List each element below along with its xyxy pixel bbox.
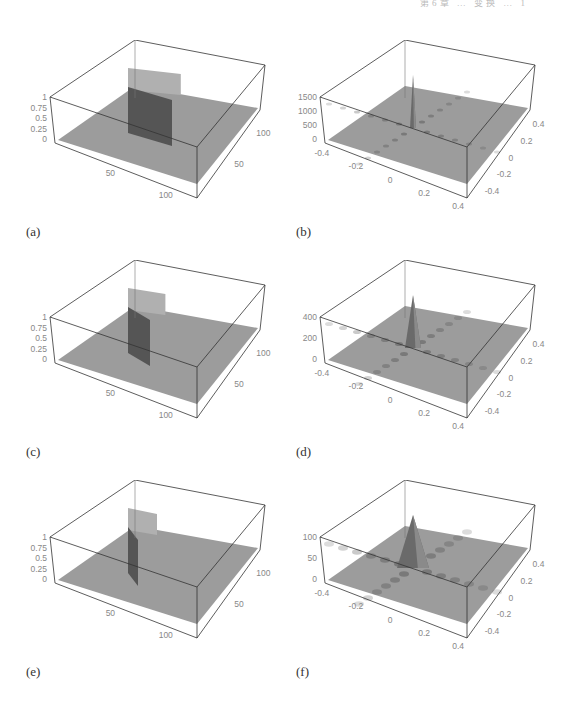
x-tick-label: -0.2 — [349, 601, 364, 611]
x-tick-label: 0.2 — [418, 408, 430, 418]
x-tick-label: -0.2 — [349, 381, 364, 391]
y-tick-label: 0.2 — [521, 356, 533, 366]
y-tick-label: -0.4 — [485, 626, 500, 636]
z-tick-label: 0.25 — [30, 564, 47, 574]
x-tick-label: 100 — [159, 410, 173, 420]
rect-pulse-surface-plot: 10.750.50.2505010050100 — [20, 480, 290, 660]
y-tick-label: 100 — [256, 348, 270, 358]
rect-pulse-surface-plot: 10.750.50.2505010050100 — [20, 40, 290, 220]
x-tick-label: 100 — [159, 190, 173, 200]
z-tick-label: 0 — [42, 134, 47, 144]
y-tick-label: -0.2 — [497, 389, 512, 399]
z-tick-label: 0.75 — [30, 103, 47, 113]
z-tick-label: 1 — [42, 92, 47, 102]
y-tick-label: 0.4 — [533, 559, 545, 569]
z-tick-label: 0.5 — [35, 333, 47, 343]
panel-caption: (f) — [296, 664, 309, 680]
y-tick-label: 0 — [509, 153, 514, 163]
x-tick-label: 0.2 — [418, 188, 430, 198]
y-tick-label: 0 — [509, 593, 514, 603]
y-tick-label: 0.2 — [521, 136, 533, 146]
figure-panel-a: 10.750.50.2505010050100(a) — [20, 40, 290, 270]
z-tick-label: 1500 — [298, 92, 317, 102]
z-tick-label: 0 — [42, 574, 47, 584]
z-tick-label: 1 — [42, 312, 47, 322]
z-tick-label: 0.5 — [35, 113, 47, 123]
x-tick-label: 50 — [106, 168, 116, 178]
z-tick-label: 1000 — [298, 106, 317, 116]
z-tick-label: 50 — [308, 553, 318, 563]
z-tick-label: 0.75 — [30, 323, 47, 333]
y-tick-label: -0.2 — [497, 609, 512, 619]
z-tick-label: 0.25 — [30, 344, 47, 354]
z-tick-label: 0 — [312, 354, 317, 364]
z-tick-label: 0.75 — [30, 543, 47, 553]
z-tick-label: 0 — [312, 134, 317, 144]
x-tick-label: 0 — [388, 175, 393, 185]
x-tick-label: 50 — [106, 608, 116, 618]
x-tick-label: 50 — [106, 388, 116, 398]
x-tick-label: 0.4 — [452, 421, 464, 431]
y-tick-label: 100 — [256, 568, 270, 578]
z-tick-label: 0.25 — [30, 124, 47, 134]
x-tick-label: 0.4 — [452, 641, 464, 651]
panel-caption: (b) — [296, 224, 311, 240]
z-tick-label: 500 — [303, 120, 317, 130]
rect-pulse-surface-plot: 10.750.50.2505010050100 — [20, 260, 290, 440]
y-tick-label: 50 — [234, 379, 244, 389]
panel-caption: (e) — [26, 664, 40, 680]
spectrum-surface-plot: 100500-0.4-0.200.20.40.40.20-0.2-0.4 — [290, 480, 560, 660]
z-tick-label: 0 — [42, 354, 47, 364]
panel-caption: (d) — [296, 444, 311, 460]
y-tick-label: 0.2 — [521, 576, 533, 586]
panel-caption: (c) — [26, 444, 40, 460]
running-head: 第6章 … 变换 … 1 — [420, 0, 566, 8]
z-tick-label: 0.5 — [35, 553, 47, 563]
z-tick-label: 200 — [303, 333, 317, 343]
spectrum-surface-plot: 4002000-0.4-0.200.20.40.40.20-0.2-0.4 — [290, 260, 560, 440]
figure-panel-c: 10.750.50.2505010050100(c) — [20, 260, 290, 490]
y-tick-label: 0 — [509, 373, 514, 383]
figure-panel-f: 100500-0.4-0.200.20.40.40.20-0.2-0.4(f) — [290, 480, 560, 710]
y-tick-label: 50 — [234, 599, 244, 609]
x-tick-label: -0.4 — [315, 368, 330, 378]
x-tick-label: -0.2 — [349, 161, 364, 171]
x-tick-label: 100 — [159, 630, 173, 640]
y-tick-label: 0.4 — [533, 119, 545, 129]
y-tick-label: -0.4 — [485, 406, 500, 416]
figure-panel-d: 4002000-0.4-0.200.20.40.40.20-0.2-0.4(d) — [290, 260, 560, 490]
y-tick-label: 50 — [234, 159, 244, 169]
figure-panel-b: 150010005000-0.4-0.200.20.40.40.20-0.2-0… — [290, 40, 560, 270]
y-tick-label: -0.2 — [497, 169, 512, 179]
z-tick-label: 100 — [303, 532, 317, 542]
z-tick-label: 0 — [312, 574, 317, 584]
x-tick-label: 0.4 — [452, 201, 464, 211]
figure-panel-e: 10.750.50.2505010050100(e) — [20, 480, 290, 710]
z-tick-label: 400 — [303, 312, 317, 322]
z-tick-label: 1 — [42, 532, 47, 542]
y-tick-label: 0.4 — [533, 339, 545, 349]
x-tick-label: -0.4 — [315, 588, 330, 598]
y-tick-label: -0.4 — [485, 186, 500, 196]
x-tick-label: 0 — [388, 615, 393, 625]
x-tick-label: 0.2 — [418, 628, 430, 638]
spectrum-surface-plot: 150010005000-0.4-0.200.20.40.40.20-0.2-0… — [290, 40, 560, 220]
x-tick-label: 0 — [388, 395, 393, 405]
y-tick-label: 100 — [256, 128, 270, 138]
panel-caption: (a) — [26, 224, 40, 240]
x-tick-label: -0.4 — [315, 148, 330, 158]
